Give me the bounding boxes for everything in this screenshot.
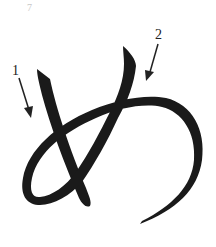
- stroke-1-number: 1: [12, 64, 19, 78]
- stroke-order-diagram: 7 1 2: [0, 0, 216, 247]
- arrow-2-icon: [145, 44, 158, 81]
- stroke-2: [22, 46, 202, 224]
- arrow-1-icon: [19, 78, 33, 118]
- character-me-glyph: [0, 0, 216, 247]
- page-mark: 7: [27, 3, 32, 13]
- stroke-2-number: 2: [155, 28, 162, 42]
